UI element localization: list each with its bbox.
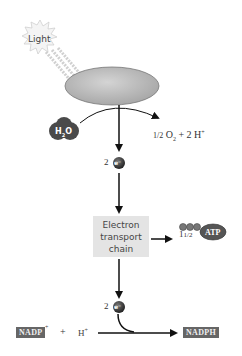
photosystem-ellipse [65, 67, 159, 105]
light-label: Light [28, 34, 50, 44]
oxygen-products-label: 1/2 O2 + 2 H+ [153, 129, 205, 142]
electron-symbol-bottom: e⁻ [114, 303, 121, 310]
electron-transport-chain-box: Electron transport chain [93, 216, 149, 257]
etc-line-1: Electron [93, 219, 149, 231]
plus-sign: + [60, 326, 66, 337]
atp-yield-label: 11/2 [179, 229, 192, 239]
electron-symbol-top: e⁻ [114, 159, 121, 166]
nadp-charge: + [45, 324, 48, 330]
nadph-label: NADPH [183, 327, 219, 338]
nadp-label: NADP [16, 327, 45, 338]
etc-line-3: chain [93, 243, 149, 255]
hydrogen-ion-label: H+ [78, 327, 88, 338]
electron-merge-curve [118, 314, 134, 332]
water-label: H2O [55, 127, 72, 138]
electron-count-top: 2 [104, 157, 109, 167]
electron-count-bottom: 2 [104, 301, 109, 311]
atp-label: ATP [205, 228, 220, 237]
etc-line-2: transport [93, 231, 149, 243]
